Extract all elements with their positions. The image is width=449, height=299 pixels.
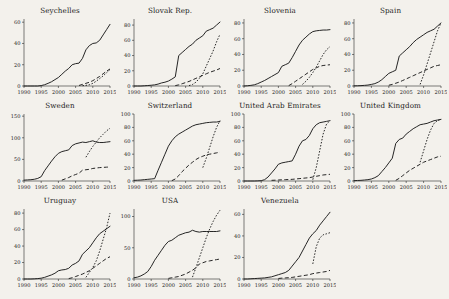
y-tick-label: 40 [124,151,130,157]
series-line-solid [354,23,441,86]
y-tick-label: 0 [127,83,130,89]
x-tick-label: 2010 [196,282,209,288]
plot-svg: 020406080199019952000200520102015 [114,15,226,100]
small-multiples-figure: Seychelles020406019901995200020052010201… [0,0,449,299]
x-tick-label: 1990 [238,89,251,95]
panel-slovenia: Slovenia02040608019901995200020052010201… [224,6,336,102]
x-tick-label: 1990 [128,184,141,190]
y-tick-label: 0 [127,178,130,184]
x-tick-label: 2005 [400,89,413,95]
x-tick-label: 2010 [86,282,99,288]
panel-united-arab-emirates: United Arab Emirates02040608010019901995… [224,101,336,197]
x-tick-label: 1995 [255,89,268,95]
series-line-solid [244,121,330,181]
x-tick-label: 1995 [255,184,268,190]
panel-title: Venezuela [224,196,336,205]
x-tick-label: 2000 [272,282,285,288]
y-tick-label: 50 [14,156,20,162]
axis-lines [24,114,110,181]
y-tick-label: 80 [124,124,130,130]
x-tick-label: 1995 [145,282,158,288]
y-tick-label: 20 [14,259,20,265]
plot-area: 050100150199019952000200520102015 [4,110,116,195]
x-tick-label: 2000 [162,282,175,288]
y-tick-label: 40 [344,51,350,57]
panel-title: Switzerland [114,101,226,110]
panel-usa: USA050100199019952000200520102015 [114,196,226,295]
axis-lines [134,209,220,279]
axis-lines [134,19,220,86]
y-tick-label: 60 [234,211,240,217]
series-line-dashed [289,65,330,86]
x-tick-label: 2000 [162,184,175,190]
axis-lines [354,114,441,181]
panel-united-kingdom: United Kingdom02040608010019901995200020… [334,101,447,197]
panel-title: USA [114,196,226,205]
x-tick-label: 2010 [86,89,99,95]
panel-slovak-rep: Slovak Rep.02040608019901995200020052010… [114,6,226,102]
plot-svg: 020406080199019952000200520102015 [224,15,336,100]
series-line-solid [24,141,110,180]
x-tick-label: 2010 [86,184,99,190]
y-tick-label: 60 [14,19,20,25]
y-tick-label: 0 [237,276,240,282]
y-tick-label: 40 [234,51,240,57]
y-tick-label: 60 [344,36,350,42]
plot-area: 050100199019952000200520102015 [114,205,226,293]
series-line-dashed [175,68,220,85]
y-tick-label: 80 [344,124,350,130]
x-tick-label: 2000 [272,89,285,95]
x-tick-label: 2000 [382,89,395,95]
series-line-dotted [86,213,110,277]
panel-sweden: Sweden050100150199019952000200520102015 [4,101,116,197]
y-tick-label: 80 [344,20,350,26]
axis-lines [24,19,110,86]
y-tick-label: 80 [234,20,240,26]
x-tick-label: 2005 [289,184,302,190]
x-tick-label: 2005 [400,184,413,190]
y-tick-label: 0 [127,276,130,282]
panel-title: United Arab Emirates [224,101,336,110]
series-line-dotted [189,34,220,85]
panel-title: United Kingdom [334,101,447,110]
x-tick-label: 2010 [417,89,430,95]
x-tick-label: 2010 [306,89,319,95]
panel-title: Seychelles [4,6,116,15]
series-line-dotted [313,121,330,180]
y-tick-label: 80 [234,124,240,130]
x-tick-label: 2015 [324,282,336,288]
x-tick-label: 1995 [255,282,268,288]
series-line-solid [24,226,110,279]
plot-area: 020406080199019952000200520102015 [4,205,116,293]
x-tick-label: 2000 [272,184,285,190]
series-line-solid [24,24,110,86]
y-tick-label: 20 [344,67,350,73]
plot-svg: 020406080199019952000200520102015 [4,205,116,293]
y-tick-label: 20 [234,165,240,171]
x-tick-label: 2010 [306,184,319,190]
y-tick-label: 60 [14,226,20,232]
y-tick-label: 60 [124,138,130,144]
y-tick-label: 0 [17,276,20,282]
x-tick-label: 1990 [238,282,251,288]
plot-svg: 0204060199019952000200520102015 [224,205,336,293]
x-tick-label: 1990 [128,282,141,288]
panel-switzerland: Switzerland02040608010019901995200020052… [114,101,226,197]
y-tick-label: 0 [237,178,240,184]
y-tick-label: 100 [231,111,241,117]
series-line-dotted [313,233,330,264]
series-line-dashed [168,259,220,278]
axis-lines [244,19,330,86]
plot-svg: 020406080100199019952000200520102015 [224,110,336,195]
plot-area: 020406080100199019952000200520102015 [114,110,226,195]
x-tick-label: 2010 [306,282,319,288]
panel-title: Spain [334,6,447,15]
plot-svg: 020406080100199019952000200520102015 [114,110,226,195]
y-tick-label: 50 [124,245,130,251]
series-line-solid [134,22,220,86]
series-line-dotted [203,121,220,168]
plot-svg: 050100199019952000200520102015 [114,205,226,293]
x-tick-label: 2000 [52,89,65,95]
x-tick-label: 2005 [179,282,192,288]
plot-area: 020406080100199019952000200520102015 [224,110,336,195]
